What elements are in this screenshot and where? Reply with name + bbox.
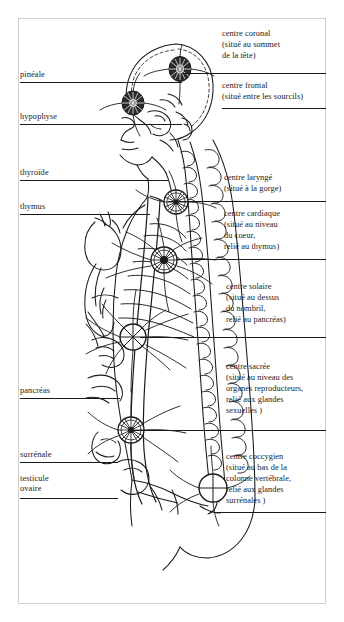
chakra-block-centre-cardiaque: centre cardiaque (situé au niveau du coe… [224, 208, 280, 252]
chakra-text-line: organes reproducteurs, [226, 383, 303, 394]
chakra-text-line: (situé au niveau [224, 219, 280, 230]
chakra-text-line: relié aux glandes [226, 394, 303, 405]
gland-label-text: pancréas [20, 386, 50, 395]
chakra-text-line: du coeur, [224, 230, 280, 241]
chakra-text-line: du nombril, [226, 303, 286, 314]
chakra-text-line: (situé au dessus [226, 292, 286, 303]
chakra-text-line: (situé au bas de la [226, 462, 291, 473]
leader-line-centre-coccygien [214, 512, 326, 513]
chakra-text-line: centre laryngé [224, 172, 281, 183]
chakra-text-line: centre coccygien [226, 451, 291, 462]
chakra-block-centre-solaire: centre solaire (situé au dessus du nombr… [226, 281, 286, 325]
chakra-text-line: sexuelles ) [226, 405, 303, 416]
chakra-text-line: colonne vertébrale, [226, 473, 291, 484]
chakra-text-line: centre solaire [226, 281, 286, 292]
gland-label-text: thyroïde [20, 168, 49, 177]
diagram-canvas: pinéale hypophyse thyroïde thymus pancré… [0, 0, 344, 622]
chakra-text-line: surrénales ) [226, 495, 291, 506]
chakra-text-line: centre frontal [222, 80, 303, 91]
chakra-text-line: (situé entre les sourcils) [222, 91, 303, 102]
gland-label-text: testicule [20, 474, 49, 484]
chakra-text-line: (situé à la gorge) [224, 183, 281, 194]
brow-chakra-glyph [122, 91, 144, 115]
gland-label-thymus: thymus [20, 202, 45, 212]
chakra-text-line: relié au pancréas) [226, 314, 286, 325]
coccyx-chakra-glyph [199, 474, 227, 502]
leader-line-pineale [20, 82, 182, 83]
chakra-block-centre-coccygien: centre coccygien (situé au bas de la col… [226, 451, 291, 506]
gland-label-hypophyse: hypophyse [20, 112, 57, 122]
chakra-text-line: (situé au niveau des [226, 372, 303, 383]
leader-line-surrenale [20, 462, 118, 463]
leader-line-centre-cardiaque [176, 259, 326, 260]
chakra-text-line: de la tête) [222, 50, 280, 61]
chakra-text-line: centre cardiaque [224, 208, 280, 219]
throat-chakra-glyph [164, 190, 188, 214]
gland-label-text-second: ovaire [20, 484, 49, 494]
chakra-block-centre-frontal: centre frontal (situé entre les sourcils… [222, 80, 303, 102]
leader-line-testicule-ovaire [20, 498, 118, 499]
leader-line-centre-larynge [168, 201, 326, 202]
heart-chakra-glyph [151, 247, 177, 273]
gland-label-text: surrénale [20, 450, 52, 459]
gland-label-surrenale: surrénale [20, 450, 52, 460]
gland-label-text: thymus [20, 202, 45, 211]
chakra-text-line: centre sacrée [226, 361, 303, 372]
gland-label-pancreas: pancréas [20, 386, 50, 396]
crown-chakra-glyph [169, 57, 191, 82]
leader-line-centre-coronal [182, 73, 326, 74]
gland-label-text: hypophyse [20, 112, 57, 121]
gland-label-testicule-ovaire: testicule ovaire [20, 474, 49, 494]
chakra-text-line: (situé au sommet [222, 39, 280, 50]
chakra-block-centre-coronal: centre coronal (situé au sommet de la tê… [222, 28, 280, 61]
leader-line-thymus [20, 214, 150, 215]
leader-line-thyroide [20, 180, 168, 181]
chakra-text-line: relié aux glandes [226, 484, 291, 495]
leader-line-hypophyse [20, 124, 182, 125]
gland-label-thyroide: thyroïde [20, 168, 49, 178]
chakra-block-centre-sacree: centre sacrée (situé au niveau des organ… [226, 361, 303, 416]
chakra-block-centre-larynge: centre laryngé (situé à la gorge) [224, 172, 281, 194]
leader-line-centre-sacree [134, 430, 326, 431]
leader-line-pancreas [20, 398, 120, 399]
chakra-text-line: centre coronal [222, 28, 280, 39]
chakra-text-line: relié au thymus) [224, 241, 280, 252]
leader-line-centre-solaire [140, 337, 326, 338]
leader-line-centre-frontal [222, 108, 326, 109]
gland-label-text: pinéale [20, 70, 45, 79]
gland-label-pineale: pinéale [20, 70, 45, 80]
